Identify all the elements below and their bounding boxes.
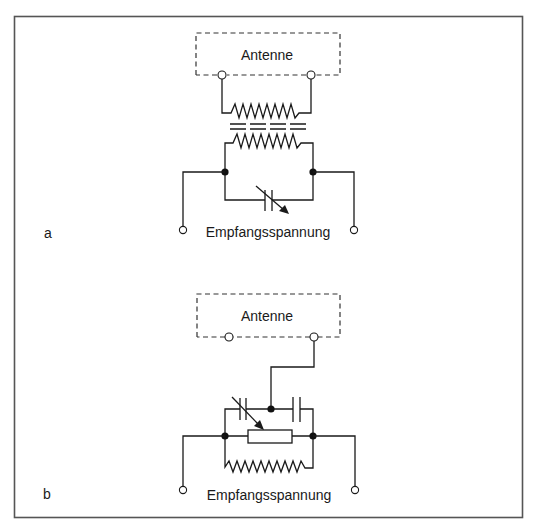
capacitor-branch-wire bbox=[225, 172, 313, 200]
antenna-terminal-right bbox=[307, 71, 315, 79]
output-wire-right bbox=[313, 172, 354, 226]
transformer bbox=[222, 79, 313, 172]
output-terminal-left bbox=[179, 226, 186, 233]
panel-b: b Antenne bbox=[43, 294, 359, 503]
antenna-box-b: Antenne bbox=[197, 294, 340, 341]
output-terminal-left bbox=[179, 486, 186, 493]
variable-capacitor-icon bbox=[232, 397, 264, 430]
output-voltage-label: Empfangsspannung bbox=[207, 487, 332, 503]
antenna-terminal-right bbox=[310, 333, 318, 341]
output-terminal-right bbox=[351, 486, 358, 493]
output-wire-left bbox=[183, 172, 225, 226]
fixed-capacitor-icon bbox=[293, 397, 300, 422]
junction-dot bbox=[267, 405, 274, 412]
panel-label-a: a bbox=[44, 225, 52, 241]
coil bbox=[225, 436, 313, 472]
panel-label-b: b bbox=[43, 486, 51, 502]
secondary-coil bbox=[225, 134, 313, 172]
circuit-diagram-figure: a Antenne Em bbox=[0, 0, 535, 527]
iron-core-icon bbox=[230, 124, 306, 129]
antenna-label: Antenne bbox=[241, 47, 293, 63]
panel-a: a Antenne Em bbox=[44, 33, 358, 241]
output-wire-left bbox=[183, 436, 225, 486]
antenna-box-a: Antenne bbox=[196, 33, 340, 79]
tuning-circuit-a: Empfangsspannung bbox=[179, 168, 357, 240]
antenna-terminal-left bbox=[218, 71, 226, 79]
tuning-circuit-b: Empfangsspannung bbox=[179, 397, 358, 503]
output-terminal-right bbox=[350, 226, 357, 233]
potentiometer-icon bbox=[225, 430, 313, 443]
antenna-label: Antenne bbox=[241, 308, 293, 324]
primary-coil bbox=[222, 79, 311, 118]
output-wire-right bbox=[313, 436, 355, 486]
output-voltage-label: Empfangsspannung bbox=[206, 224, 331, 240]
antenna-terminal-left bbox=[225, 333, 233, 341]
